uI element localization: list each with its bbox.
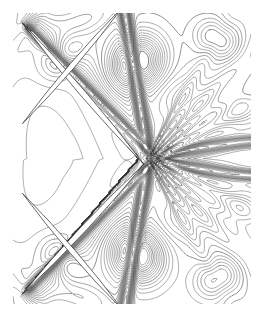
contour-line (152, 154, 153, 155)
contour-line (134, 180, 135, 181)
contour-line (136, 138, 137, 139)
contour-line (109, 111, 110, 112)
contour-line (132, 182, 133, 183)
plot-margin-mask (0, 0, 13, 325)
contour-plot-canvas (0, 0, 265, 325)
contour-line (158, 165, 159, 166)
contour-line (78, 80, 79, 81)
plot-margin-mask (0, 0, 265, 13)
contour-line (121, 193, 122, 194)
contour-line (152, 161, 153, 162)
contour-figure (0, 0, 265, 325)
plot-margin-mask (0, 304, 265, 325)
contour-line (153, 157, 155, 158)
contour-line (97, 100, 98, 101)
contour-line (184, 136, 185, 137)
contour-line (158, 148, 159, 149)
contour-line (174, 185, 175, 186)
contour-line (163, 166, 164, 167)
plot-margin-mask (251, 0, 265, 325)
